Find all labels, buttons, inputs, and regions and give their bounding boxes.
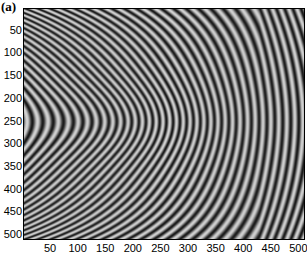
x-tick-label: 100 — [68, 243, 86, 254]
y-tick-label: 50 — [10, 25, 22, 36]
x-tick-label: 400 — [234, 243, 252, 254]
x-tick-label: 150 — [96, 243, 114, 254]
y-tick-label: 250 — [4, 116, 22, 127]
y-tick-label: 350 — [4, 161, 22, 172]
y-tick-label: 400 — [4, 184, 22, 195]
y-tick-label: 100 — [4, 47, 22, 58]
x-tick-label: 300 — [179, 243, 197, 254]
y-tick-label: 200 — [4, 93, 22, 104]
x-tick-label: 200 — [124, 243, 142, 254]
x-tick-label: 450 — [262, 243, 280, 254]
y-tick-label: 450 — [4, 206, 22, 217]
y-tick-label: 500 — [4, 229, 22, 240]
fringe-image-plot — [23, 8, 305, 240]
x-tick-label: 250 — [151, 243, 169, 254]
fringe-image — [24, 9, 304, 239]
x-tick-label: 50 — [44, 243, 56, 254]
y-tick-label: 300 — [4, 138, 22, 149]
y-tick-label: 150 — [4, 70, 22, 81]
x-tick-label: 500 — [289, 243, 307, 254]
x-tick-label: 350 — [206, 243, 224, 254]
panel-label: (a) — [1, 0, 16, 15]
